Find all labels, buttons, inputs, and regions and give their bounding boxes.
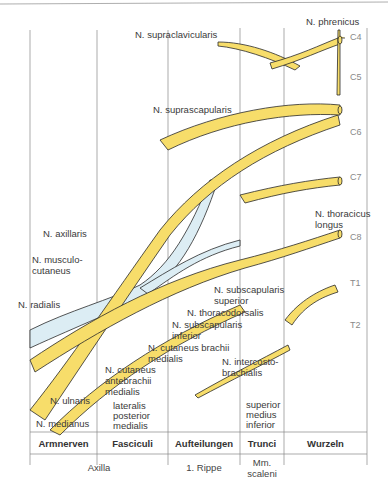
label-trunci-inferior: inferior bbox=[246, 420, 275, 431]
label-cutaneus-antebrachii: N. cutaneus bbox=[105, 365, 156, 376]
segment-c6: C6 bbox=[350, 127, 362, 137]
label-intercostobrachialis: N. intercosto- bbox=[222, 357, 279, 368]
label-cutaneus-brachii: N. cutaneus brachii bbox=[148, 343, 229, 354]
label-ulnaris: N. ulnaris bbox=[50, 396, 90, 407]
label-subscapularis-inferior: N. subscapularis bbox=[172, 320, 242, 331]
label-subscapularis-inferior-2: inferior bbox=[172, 331, 201, 342]
footer-axilla: Axilla bbox=[30, 463, 168, 474]
segment-c4: C4 bbox=[350, 32, 362, 42]
label-fasciculi-medialis: medialis bbox=[113, 421, 148, 432]
label-thoracicus: N. thoracicus bbox=[315, 209, 370, 220]
header-armnerven: Armnerven bbox=[30, 438, 97, 449]
label-cutaneus-brachii-2: medialis bbox=[148, 354, 183, 365]
label-thoracodorsalis: N. thoracodorsalis bbox=[187, 308, 264, 319]
segment-c8: C8 bbox=[350, 232, 362, 242]
label-subscapularis-superior: N. subscapularis bbox=[214, 285, 284, 296]
label-radialis: N. radialis bbox=[18, 300, 60, 311]
label-subscapularis-superior-2: superior bbox=[214, 296, 248, 307]
label-musculocutaneus-2: cutaneus bbox=[32, 266, 71, 277]
footer-rippe: 1. Rippe bbox=[168, 463, 240, 474]
label-suprascapularis: N. suprascapularis bbox=[153, 105, 232, 116]
header-fasciculi: Fasciculi bbox=[97, 438, 168, 449]
footer-scaleni-2: scaleni bbox=[240, 469, 284, 480]
segment-c7: C7 bbox=[350, 172, 362, 182]
label-cutaneus-antebrachii-3: medialis bbox=[105, 387, 140, 398]
label-medianus: N. medianus bbox=[36, 419, 89, 430]
label-musculocutaneus: N. musculo- bbox=[32, 255, 83, 266]
header-aufteilungen: Aufteilungen bbox=[168, 438, 240, 449]
label-supraclavicularis: N. supraclavicularis bbox=[135, 30, 217, 41]
segment-t2: T2 bbox=[350, 320, 361, 330]
label-cutaneus-antebrachii-2: antebrachii bbox=[105, 376, 151, 387]
label-thoracicus-longus: longus bbox=[315, 220, 343, 231]
header-wurzeln: Wurzeln bbox=[284, 438, 367, 449]
footer-scaleni: Mm. bbox=[240, 458, 284, 469]
label-intercostobrachialis-2: brachialis bbox=[222, 368, 262, 379]
header-trunci: Trunci bbox=[240, 438, 284, 449]
segment-t1: T1 bbox=[350, 278, 361, 288]
label-phrenicus: N. phrenicus bbox=[306, 17, 359, 28]
label-axillaris: N. axillaris bbox=[43, 229, 87, 240]
segment-c5: C5 bbox=[350, 72, 362, 82]
